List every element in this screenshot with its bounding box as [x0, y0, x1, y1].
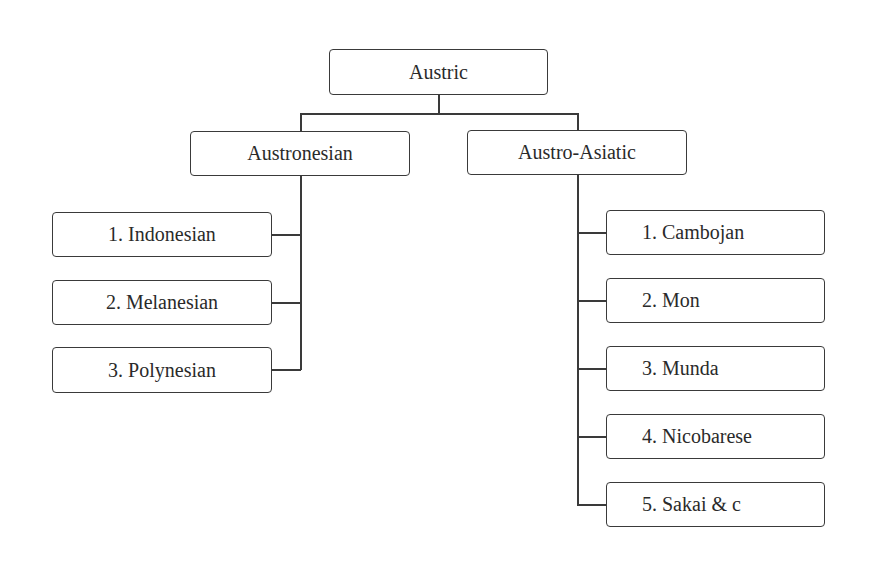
connector-austronesian-up	[300, 113, 302, 131]
node-indonesian: 1. Indonesian	[52, 212, 272, 257]
node-munda: 3. Munda	[606, 346, 825, 391]
node-melanesian: 2. Melanesian	[52, 280, 272, 325]
node-austro-asiatic: Austro-Asiatic	[467, 130, 687, 175]
connector-munda	[577, 368, 607, 370]
connector-nicobarese	[577, 436, 607, 438]
connector-root-down	[438, 95, 440, 113]
node-sakai: 5. Sakai & c	[606, 482, 825, 527]
node-nicobarese: 4. Nicobarese	[606, 414, 825, 459]
connector-indonesian	[272, 234, 301, 236]
connector-root-horizontal	[300, 113, 578, 115]
connector-sakai	[577, 504, 607, 506]
node-mon: 2. Mon	[606, 278, 825, 323]
node-polynesian: 3. Polynesian	[52, 347, 272, 393]
node-austric: Austric	[329, 49, 548, 95]
connector-melanesian	[272, 302, 301, 304]
node-austronesian: Austronesian	[190, 131, 410, 176]
connector-polynesian	[272, 369, 301, 371]
connector-austronesian-trunk	[300, 176, 302, 370]
connector-mon	[577, 300, 607, 302]
connector-austroasiatic-up	[577, 113, 579, 130]
connector-cambojan	[577, 232, 607, 234]
node-cambojan: 1. Cambojan	[606, 210, 825, 255]
connector-austroasiatic-trunk	[577, 175, 579, 505]
